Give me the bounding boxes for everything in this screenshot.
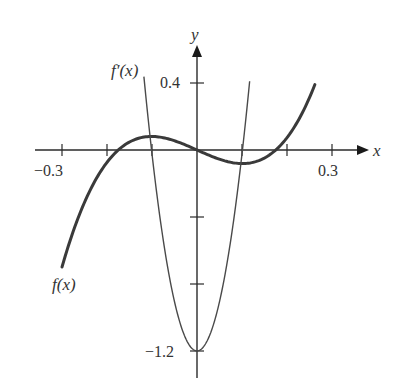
curve-label-f: f(x) xyxy=(52,275,76,294)
y-tick-label-bottom: −1.2 xyxy=(145,343,174,360)
axes xyxy=(35,45,369,378)
x-axis-label: x xyxy=(372,141,381,160)
curve-f xyxy=(62,85,315,267)
chart-figure: y x −0.3 0.3 0.4 −1.2 f′(x) f(x) xyxy=(0,0,407,388)
y-axis-arrow-icon xyxy=(192,45,202,57)
y-tick-label-top: 0.4 xyxy=(160,74,180,91)
x-tick-label-pos: 0.3 xyxy=(318,162,338,179)
curve-label-f-prime: f′(x) xyxy=(111,61,139,80)
x-tick-label-neg: −0.3 xyxy=(34,162,63,179)
x-axis-arrow-icon xyxy=(357,145,369,155)
y-axis-label: y xyxy=(189,25,199,44)
